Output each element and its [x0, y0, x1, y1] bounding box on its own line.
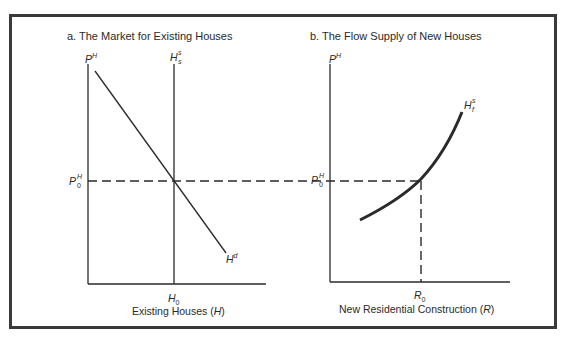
- panel-b-supply-label: Hsf: [464, 100, 472, 111]
- panel-b-y-axis-label: PH: [329, 52, 341, 64]
- panel-b-flow-supply-curve: [360, 112, 462, 220]
- panel-a-y-axis-label: PH: [85, 52, 97, 64]
- panel-a-x-axis-title: Existing Houses (H): [132, 305, 225, 317]
- panel-a-demand-line: [95, 71, 226, 253]
- panel-b-price-label: PH0: [311, 175, 318, 186]
- panel-a-price-label: PH0: [69, 176, 76, 187]
- panel-a-title: a. The Market for Existing Houses: [67, 30, 232, 42]
- diagram-canvas: [0, 0, 567, 338]
- panel-b-title: b. The Flow Supply of New Houses: [310, 30, 482, 42]
- panel-b-x-axis-title: New Residential Construction (R): [339, 303, 494, 315]
- panel-b-x-tick-label: R0: [414, 290, 426, 303]
- panel-a-demand-label: Hd: [226, 252, 238, 264]
- panel-a-supply-label: Hss: [170, 52, 178, 63]
